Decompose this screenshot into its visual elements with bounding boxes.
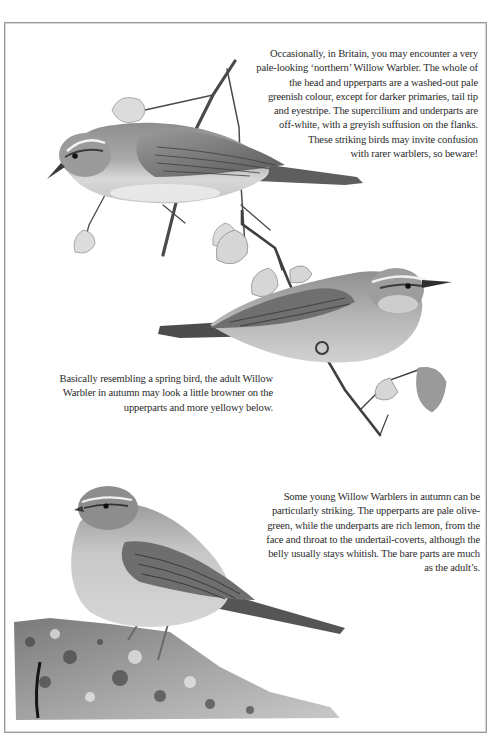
caption-northern-willow-warbler: Occasionally, in Britain, you may encoun…: [220, 47, 478, 161]
caption-young-autumn-willow-warbler: Some young Willow Warblers in autumn can…: [230, 490, 480, 576]
bill: [422, 280, 452, 288]
bill: [47, 163, 65, 179]
caption-adult-autumn-willow-warbler: Basically resembling a spring bird, the …: [20, 372, 273, 415]
adult-autumn-willow-warbler-illustration: [150, 210, 470, 455]
rock: [14, 618, 340, 720]
